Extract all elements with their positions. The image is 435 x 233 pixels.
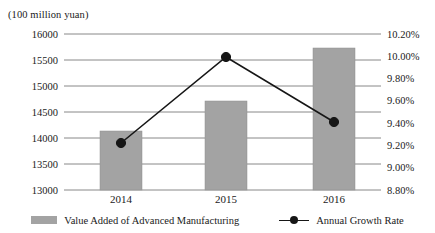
left-axis-tick-label: 14500	[32, 107, 58, 118]
legend-label-growth-rate: Annual Growth Rate	[316, 215, 403, 226]
right-axis-tick-label: 9.20%	[387, 140, 414, 151]
left-axis-tick-label: 15000	[32, 81, 58, 92]
growth-rate-marker-2016[interactable]	[329, 117, 338, 126]
right-axis-tick-label: 8.80%	[387, 185, 414, 196]
x-axis-tick-label-2014: 2014	[110, 193, 133, 205]
legend-item-value-added[interactable]: Value Added of Advanced Manufacturing	[31, 215, 239, 226]
bar-swatch-icon	[31, 216, 57, 224]
left-axis-tick-label: 16000	[32, 29, 58, 40]
left-axis-tick-label: 13500	[32, 159, 58, 170]
left-axis-tick-label: 13000	[32, 185, 58, 196]
legend-label-value-added: Value Added of Advanced Manufacturing	[64, 215, 239, 226]
right-axis-tick-label: 10.20%	[387, 29, 420, 40]
chart-container: (100 million yuan) 16000 15500 15000 145…	[0, 0, 435, 233]
right-axis-tick-label: 9.60%	[387, 95, 414, 106]
right-axis-tick-label: 9.80%	[387, 73, 414, 84]
x-axis-tick-label-2016: 2016	[323, 193, 346, 205]
right-axis-ticks: 10.20% 10.00% 9.80% 9.60% 9.40% 9.20% 9.…	[387, 29, 420, 196]
bar-2015[interactable]	[205, 101, 247, 190]
legend-item-growth-rate[interactable]: Annual Growth Rate	[279, 215, 403, 226]
growth-rate-marker-2014[interactable]	[116, 138, 125, 147]
left-axis-ticks: 16000 15500 15000 14500 14000 13500 1300…	[32, 29, 58, 196]
chart-plot-area: 16000 15500 15000 14500 14000 13500 1300…	[0, 0, 435, 207]
x-axis-ticks: 2014 2015 2016	[110, 193, 346, 205]
line-marker-icon	[279, 215, 309, 225]
growth-rate-marker-2015[interactable]	[221, 52, 230, 61]
left-axis-tick-label: 14000	[32, 133, 58, 144]
chart-legend: Value Added of Advanced Manufacturing An…	[0, 207, 435, 233]
left-axis-tick-label: 15500	[32, 55, 58, 66]
right-axis-tick-label: 9.00%	[387, 162, 414, 173]
x-axis-tick-label-2015: 2015	[215, 193, 238, 205]
bars-group	[100, 48, 355, 190]
right-axis-tick-label: 9.40%	[387, 118, 414, 129]
right-axis-tick-label: 10.00%	[387, 51, 420, 62]
